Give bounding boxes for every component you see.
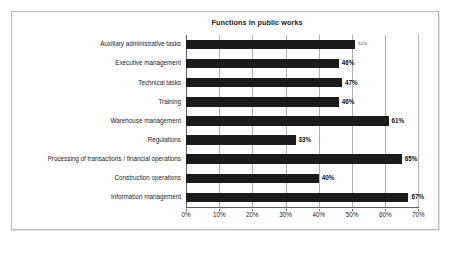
- bar-row: Warehouse management 61%: [186, 111, 449, 130]
- x-axis-ticks: 0% 10% 20% 30% 40% 50% 60% 70%: [186, 209, 418, 223]
- category-label: Technical tasks: [138, 80, 181, 86]
- xtick-label: 40%: [312, 211, 325, 218]
- bar-value-label: 33%: [299, 137, 312, 143]
- x-axis-line: [186, 207, 419, 208]
- chart-frame: Functions in public works Auxiliary admi…: [11, 11, 439, 230]
- xtick-label: 70%: [412, 211, 425, 218]
- bar-value-label: 51%: [358, 42, 367, 46]
- bar: [186, 135, 296, 144]
- bar-value-label: 47%: [345, 80, 358, 86]
- bar-value-label: 46%: [342, 99, 355, 105]
- category-label: Executive management: [115, 60, 181, 66]
- category-label: Auxiliary administrative tasks: [100, 41, 181, 47]
- bar: [186, 174, 319, 183]
- xtick-label: 50%: [346, 211, 359, 218]
- bar: [186, 154, 402, 163]
- bar: [186, 40, 355, 49]
- bar-row: Regulations 33%: [186, 131, 449, 150]
- bar-value-label: 40%: [322, 175, 335, 181]
- bar: [186, 116, 389, 125]
- chart-title: Functions in public works: [12, 18, 438, 27]
- bar-rows: Auxiliary administrative tasks 51% Execu…: [186, 35, 418, 207]
- xtick-label: 20%: [246, 211, 259, 218]
- bar-row: Information management 67%: [186, 188, 449, 207]
- bar-row: Training 46%: [186, 92, 449, 111]
- bar: [186, 97, 339, 106]
- bar-row: Technical tasks 47%: [186, 73, 449, 92]
- category-label: Warehouse management: [111, 118, 181, 124]
- xtick-label: 60%: [379, 211, 392, 218]
- xtick-label: 30%: [279, 211, 292, 218]
- xtick-label: 10%: [213, 211, 226, 218]
- xtick-label: 0%: [181, 211, 190, 218]
- bar-value-label: 61%: [392, 118, 405, 124]
- category-label: Regulations: [148, 137, 181, 143]
- bar-value-label: 67%: [411, 194, 424, 200]
- bar: [186, 59, 339, 68]
- bar-row: Auxiliary administrative tasks 51%: [186, 35, 449, 54]
- category-label: Processing of transactions / financial o…: [48, 156, 181, 162]
- category-label: Information management: [111, 194, 181, 200]
- bar: [186, 193, 408, 202]
- bar-row: Executive management 46%: [186, 54, 449, 73]
- plot-area: Auxiliary administrative tasks 51% Execu…: [186, 35, 418, 207]
- bar-value-label: 46%: [342, 60, 355, 66]
- bar-row: Construction operations 40%: [186, 169, 449, 188]
- category-label: Training: [158, 99, 181, 105]
- bar: [186, 78, 342, 87]
- bar-value-label: 65%: [405, 156, 418, 162]
- bar-row: Processing of transactions / financial o…: [186, 150, 449, 169]
- category-label: Construction operations: [114, 175, 181, 181]
